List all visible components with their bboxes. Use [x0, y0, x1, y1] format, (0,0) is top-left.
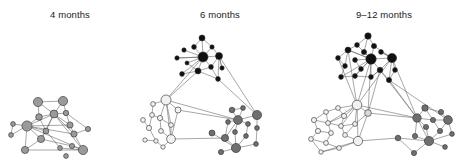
- network-edge: [41, 139, 72, 146]
- network-node: [430, 117, 435, 122]
- network-node: [337, 146, 342, 151]
- network-node: [78, 145, 87, 154]
- network-graph-6-months: [140, 0, 300, 161]
- network-node: [36, 114, 43, 121]
- network-node: [159, 129, 164, 134]
- network-node: [175, 56, 179, 60]
- network-node: [246, 122, 251, 127]
- network-node: [143, 138, 147, 142]
- network-node: [366, 54, 376, 64]
- network-node: [150, 113, 155, 118]
- network-node: [58, 96, 67, 105]
- network-node: [324, 110, 329, 115]
- network-node: [218, 149, 223, 154]
- network-node: [359, 67, 364, 72]
- network-node: [324, 141, 329, 146]
- network-node: [450, 132, 455, 137]
- network-node: [444, 116, 453, 125]
- network-edge: [171, 138, 225, 139]
- network-node: [182, 48, 186, 52]
- network-node: [254, 142, 259, 147]
- network-edge: [368, 113, 417, 118]
- network-node: [226, 120, 231, 125]
- network-node: [353, 136, 362, 145]
- network-node: [141, 118, 146, 123]
- network-node: [443, 145, 448, 150]
- network-node: [438, 109, 443, 114]
- network-node: [209, 130, 215, 136]
- network-node: [216, 53, 223, 60]
- network-figure: 4 months 6 months 9–12 months: [0, 0, 468, 161]
- network-node: [339, 75, 344, 80]
- network-node: [167, 135, 176, 144]
- network-node: [209, 65, 214, 70]
- network-node: [353, 74, 358, 79]
- network-node: [244, 134, 249, 139]
- network-node: [43, 128, 49, 134]
- network-edge: [392, 58, 417, 118]
- network-node: [11, 122, 16, 127]
- network-svg: [0, 0, 140, 161]
- network-node: [241, 106, 246, 111]
- network-node: [353, 58, 358, 63]
- network-node: [63, 110, 68, 115]
- network-graph-9-12-months: [300, 0, 468, 161]
- network-node: [161, 145, 165, 149]
- network-node: [85, 126, 90, 131]
- network-node: [326, 121, 331, 126]
- network-node: [424, 136, 433, 145]
- network-node: [161, 95, 171, 105]
- network-node: [413, 114, 421, 122]
- network-node: [231, 143, 240, 152]
- network-edge: [166, 57, 203, 100]
- network-node: [199, 35, 205, 41]
- network-edge: [380, 70, 417, 118]
- network-graph-4-months: [0, 0, 140, 161]
- network-node: [71, 131, 77, 137]
- network-node: [369, 75, 374, 80]
- network-node: [175, 107, 181, 113]
- network-node: [377, 67, 383, 73]
- network-node: [422, 105, 428, 111]
- node-layer: [9, 96, 91, 158]
- network-node: [192, 45, 197, 50]
- network-node: [341, 113, 346, 118]
- panel-6-months: 6 months: [140, 0, 300, 161]
- network-node: [185, 61, 189, 65]
- network-node: [352, 100, 362, 110]
- node-layer: [309, 33, 455, 156]
- network-node: [221, 134, 228, 141]
- network-node: [220, 66, 224, 70]
- network-node: [355, 43, 360, 48]
- network-node: [395, 135, 401, 141]
- network-node: [195, 68, 201, 74]
- network-node: [146, 125, 151, 130]
- network-node: [353, 122, 358, 127]
- network-node: [339, 124, 344, 129]
- network-node: [343, 64, 348, 69]
- network-node: [311, 117, 316, 122]
- network-node: [336, 56, 341, 61]
- panel-4-months: 4 months: [0, 0, 140, 161]
- network-node: [33, 97, 42, 106]
- network-svg: [300, 0, 468, 161]
- network-node: [361, 49, 366, 54]
- network-node: [319, 150, 323, 154]
- network-edge: [398, 138, 414, 153]
- network-node: [386, 77, 391, 82]
- network-node: [379, 50, 384, 55]
- network-node: [21, 146, 28, 153]
- network-node: [157, 115, 162, 120]
- network-node: [411, 150, 416, 155]
- network-node: [154, 139, 158, 143]
- network-node: [234, 116, 243, 125]
- network-node: [210, 45, 214, 49]
- network-edge: [54, 114, 83, 150]
- network-node: [309, 137, 314, 142]
- network-node: [22, 121, 32, 131]
- network-node: [412, 133, 417, 138]
- network-node: [50, 110, 58, 118]
- network-node: [9, 133, 14, 138]
- network-svg: [140, 0, 300, 161]
- network-node: [180, 72, 185, 77]
